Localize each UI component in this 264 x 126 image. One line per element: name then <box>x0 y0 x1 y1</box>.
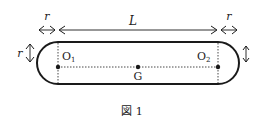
label-o1: O1 <box>62 50 76 64</box>
o1-point <box>56 65 60 69</box>
label-length: L <box>128 14 137 28</box>
label-g: G <box>134 70 143 83</box>
figure-caption: 図 1 <box>121 105 143 118</box>
g-point <box>136 65 140 69</box>
label-radius-left: r <box>44 10 50 23</box>
o2-point <box>216 65 220 69</box>
label-o2: O2 <box>197 50 211 64</box>
stadium-diagram: L r r r O1 O2 G 図 1 <box>0 0 264 126</box>
label-radius-side: r <box>17 47 23 60</box>
label-radius-right: r <box>226 10 232 23</box>
